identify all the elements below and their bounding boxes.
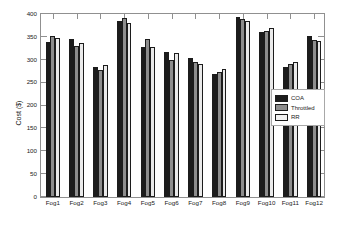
y-axis-tick-label: 200	[27, 102, 37, 108]
legend-swatch-rr	[275, 114, 288, 121]
x-axis-tick-label: Fog2	[70, 200, 84, 206]
bar-group	[117, 14, 132, 197]
bar	[198, 64, 203, 197]
bar	[150, 47, 155, 197]
legend-swatch-throttled	[275, 104, 288, 111]
bar-group	[69, 14, 84, 197]
y-axis-tick-label: 150	[27, 125, 37, 131]
legend-label-rr: RR	[291, 114, 300, 120]
y-axis-tick-label: 350	[27, 34, 37, 40]
bar	[245, 21, 250, 197]
bar	[293, 62, 298, 197]
legend-label-coa: COA	[291, 95, 304, 101]
legend-entry: COA	[275, 94, 321, 103]
bar-group	[141, 14, 156, 197]
bar	[103, 65, 108, 197]
y-axis-tick-label: 300	[27, 57, 37, 63]
bar	[222, 69, 227, 197]
legend-swatch-coa	[275, 95, 288, 102]
x-axis-tick-label: Fog12	[305, 200, 323, 206]
bar	[174, 53, 179, 197]
bar	[79, 43, 84, 197]
bar-group	[188, 14, 203, 197]
chart-legend: COA Throttled RR	[271, 89, 325, 126]
y-axis-tick-label: 250	[27, 80, 37, 86]
bar-group	[46, 14, 61, 197]
y-axis-tick-label: 400	[27, 11, 37, 17]
y-axis-title: Cost ($)	[15, 100, 22, 125]
legend-entry: RR	[275, 113, 321, 122]
y-axis-tick-label: 50	[30, 171, 37, 177]
x-axis-tick-label: Fog11	[282, 200, 299, 206]
x-axis-tick-label: Fog4	[117, 200, 131, 206]
bar-group	[164, 14, 179, 197]
x-axis-tick-label: Fog10	[258, 200, 276, 206]
legend-label-throttled: Throttled	[291, 105, 315, 111]
x-axis-tick-label: Fog8	[212, 200, 226, 206]
bar	[127, 23, 132, 197]
legend-entry: Throttled	[275, 103, 321, 112]
bar-group	[93, 14, 108, 197]
x-axis-tick-label: Fog6	[165, 200, 179, 206]
x-axis-tick-label: Fog5	[141, 200, 155, 206]
bar	[55, 38, 60, 197]
bar-chart-figure: Cost ($) 050100150200250300350400 Fog1Fo…	[0, 0, 343, 225]
x-axis-tick-label: Fog7	[188, 200, 202, 206]
y-axis-tick-label: 0	[34, 194, 37, 200]
x-axis-tick-label: Fog3	[93, 200, 107, 206]
y-axis-tick-label: 100	[27, 148, 37, 154]
bar-group	[212, 14, 227, 197]
bar-group	[236, 14, 251, 197]
x-axis-tick-label: Fog1	[46, 200, 60, 206]
x-axis-tick-label: Fog9	[236, 200, 250, 206]
